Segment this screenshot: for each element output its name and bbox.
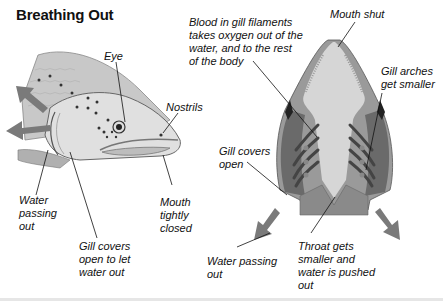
label-nostrils: Nostrils [166,101,203,114]
label-gill-covers-open-top: Gill covers open [219,145,270,171]
label-gill-arches-get-smaller: Gill arches get smaller [381,65,435,91]
label-throat-gets-smaller: Throat gets smaller and water is pushed … [298,240,375,292]
label-eye: Eye [104,50,123,63]
label-water-passing-out-side: Water passing out [19,194,57,233]
label-gill-covers-open-to-let-water-out: Gill covers open to let water out [79,240,130,279]
label-blood-in-gill-filaments: Blood in gill filaments takes oxygen out… [189,16,303,68]
label-water-passing-out-top: Water passing out [207,255,277,281]
label-mouth-tightly-closed: Mouth tightly closed [160,196,192,235]
label-mouth-shut: Mouth shut [330,8,384,21]
